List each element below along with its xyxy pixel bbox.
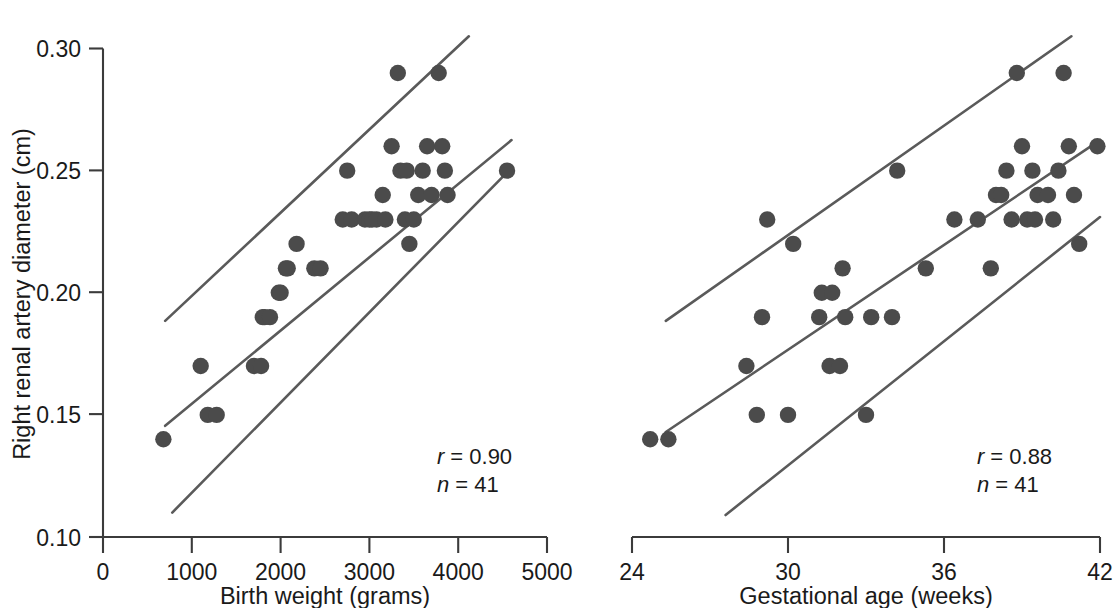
y-tick-label-0.15: 0.15 bbox=[36, 402, 81, 428]
data-point bbox=[406, 211, 422, 227]
data-point bbox=[423, 187, 439, 203]
right-panel: 24 30 36 42 Gestational age (weeks) r= 0… bbox=[619, 36, 1113, 608]
data-point bbox=[1009, 65, 1025, 81]
left-y-ticks bbox=[89, 49, 103, 538]
left-x-tick-label-5000: 5000 bbox=[521, 559, 572, 585]
data-point bbox=[759, 211, 775, 227]
left-x-tick-label-1000: 1000 bbox=[166, 559, 217, 585]
data-point bbox=[262, 309, 278, 325]
data-point bbox=[738, 358, 754, 374]
data-point bbox=[155, 431, 171, 447]
right-x-tick-label-36: 36 bbox=[931, 559, 957, 585]
left-x-tick-label-2000: 2000 bbox=[255, 559, 306, 585]
data-point bbox=[858, 407, 874, 423]
data-point bbox=[983, 260, 999, 276]
data-point bbox=[1066, 187, 1082, 203]
right-r-symbol: r bbox=[977, 444, 986, 469]
data-point bbox=[884, 309, 900, 325]
data-point bbox=[208, 407, 224, 423]
data-point bbox=[312, 260, 328, 276]
data-point bbox=[946, 211, 962, 227]
right-annotation: r= 0.88 n= 41 bbox=[977, 444, 1052, 497]
data-point bbox=[1027, 211, 1043, 227]
data-point bbox=[383, 138, 399, 154]
left-x-tick-label-0: 0 bbox=[97, 559, 110, 585]
y-tick-label-0.30: 0.30 bbox=[36, 36, 81, 62]
left-r-value: = 0.90 bbox=[450, 444, 512, 469]
right-x-tick-label-30: 30 bbox=[775, 559, 801, 585]
data-point bbox=[1003, 211, 1019, 227]
svg-text:n= 41: n= 41 bbox=[437, 472, 499, 497]
data-point bbox=[339, 162, 355, 178]
left-x-tick-label-3000: 3000 bbox=[344, 559, 395, 585]
data-point bbox=[811, 309, 827, 325]
data-point bbox=[993, 187, 1009, 203]
data-point bbox=[754, 309, 770, 325]
data-point bbox=[998, 162, 1014, 178]
data-point bbox=[419, 138, 435, 154]
y-tick-label-0.10: 0.10 bbox=[36, 525, 81, 551]
left-x-tick-label-4000: 4000 bbox=[433, 559, 484, 585]
left-x-ticks bbox=[103, 537, 547, 553]
data-point bbox=[399, 162, 415, 178]
data-point bbox=[377, 211, 393, 227]
data-point bbox=[288, 236, 304, 252]
data-point bbox=[970, 211, 986, 227]
data-point bbox=[430, 65, 446, 81]
left-panel: 0.30 0.25 0.20 0.15 0.10 0 1000 2000 300… bbox=[36, 36, 572, 608]
data-point bbox=[834, 260, 850, 276]
y-axis-title: Right renal artery diameter (cm) bbox=[9, 128, 35, 460]
data-point bbox=[437, 162, 453, 178]
data-point bbox=[1055, 65, 1071, 81]
data-point bbox=[785, 236, 801, 252]
data-point bbox=[1061, 138, 1077, 154]
left-annotation: r= 0.90 n= 41 bbox=[437, 444, 512, 497]
data-point bbox=[918, 260, 934, 276]
data-point bbox=[390, 65, 406, 81]
data-point bbox=[749, 407, 765, 423]
svg-text:r= 0.88: r= 0.88 bbox=[977, 444, 1052, 469]
right-r-value: = 0.88 bbox=[990, 444, 1052, 469]
y-tick-label-0.20: 0.20 bbox=[36, 280, 81, 306]
svg-text:r= 0.90: r= 0.90 bbox=[437, 444, 512, 469]
data-point bbox=[253, 358, 269, 374]
data-point bbox=[1050, 162, 1066, 178]
data-point bbox=[1089, 138, 1105, 154]
left-r-symbol: r bbox=[437, 444, 446, 469]
left-n-value: = 41 bbox=[455, 472, 498, 497]
right-upper-band bbox=[666, 36, 1072, 321]
right-x-tick-label-24: 24 bbox=[619, 559, 645, 585]
data-point bbox=[499, 162, 515, 178]
right-x-ticks bbox=[632, 537, 1100, 553]
data-point bbox=[1014, 138, 1030, 154]
right-n-symbol: n bbox=[977, 472, 989, 497]
left-regression-line bbox=[165, 140, 511, 426]
data-point bbox=[837, 309, 853, 325]
data-point bbox=[642, 431, 658, 447]
svg-text:n= 41: n= 41 bbox=[977, 472, 1039, 497]
data-point bbox=[824, 285, 840, 301]
right-x-tick-label-42: 42 bbox=[1087, 559, 1113, 585]
right-n-value: = 41 bbox=[995, 472, 1038, 497]
data-point bbox=[1045, 211, 1061, 227]
data-point bbox=[192, 358, 208, 374]
data-point bbox=[414, 162, 430, 178]
y-tick-label-0.25: 0.25 bbox=[36, 158, 81, 184]
left-fit-lines bbox=[165, 36, 511, 512]
left-x-axis-title: Birth weight (grams) bbox=[220, 583, 430, 608]
data-point bbox=[272, 285, 288, 301]
right-lower-band bbox=[726, 217, 1100, 515]
data-point bbox=[863, 309, 879, 325]
two-panel-scatter-figure: Right renal artery diameter (cm) 0.30 0.… bbox=[0, 0, 1118, 608]
data-point bbox=[1040, 187, 1056, 203]
data-point bbox=[1024, 162, 1040, 178]
data-point bbox=[434, 138, 450, 154]
data-point bbox=[439, 187, 455, 203]
data-point bbox=[401, 236, 417, 252]
data-point bbox=[375, 187, 391, 203]
right-x-axis-title: Gestational age (weeks) bbox=[739, 583, 992, 608]
data-point bbox=[780, 407, 796, 423]
data-point bbox=[889, 162, 905, 178]
data-point bbox=[832, 358, 848, 374]
left-n-symbol: n bbox=[437, 472, 449, 497]
